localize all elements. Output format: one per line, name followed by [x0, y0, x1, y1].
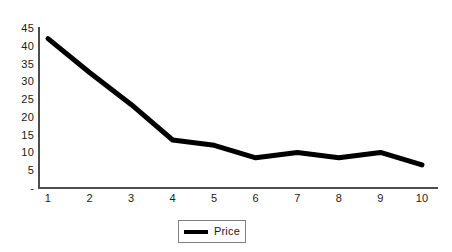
legend-swatch-price — [184, 230, 208, 234]
series-line-price — [48, 39, 422, 165]
plot-area — [0, 0, 452, 252]
line-chart: 45403530252015105- 12345678910 Price — [0, 0, 452, 252]
legend-label-price: Price — [214, 226, 240, 237]
legend: Price — [178, 220, 246, 243]
